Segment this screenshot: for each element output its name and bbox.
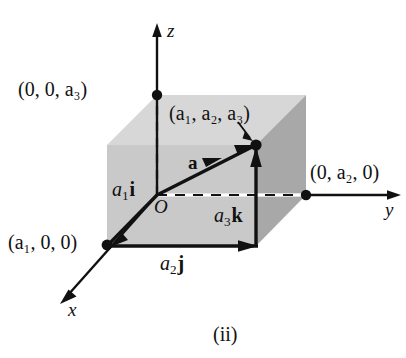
z-component-scalar: a — [214, 204, 224, 226]
label-y-intercept-text: (0, a₂, 0) — [310, 161, 379, 183]
x-component-unit: i — [130, 178, 136, 200]
z-component-index: 3 — [224, 214, 231, 229]
label-origin: O — [154, 197, 168, 216]
vector-components-diagram: (0, 0, a₃) (a₁, a₂, a₃) (0, a₂, 0) (a₁, … — [0, 0, 406, 358]
label-resultant-vector: a — [188, 153, 198, 172]
y-component-unit: j — [178, 252, 185, 274]
origin-name: O — [154, 196, 168, 217]
figure-caption-text: (ii) — [213, 323, 237, 345]
y-axis-name: y — [385, 199, 393, 220]
label-z-component: a3k — [214, 205, 243, 228]
point-dot-x-intercept — [102, 240, 113, 251]
label-z-intercept-text: (0, 0, a₃) — [18, 78, 87, 100]
y-component-index: 2 — [170, 262, 177, 277]
label-x-axis: x — [68, 300, 76, 319]
resultant-vector-name: a — [188, 152, 198, 173]
label-x-intercept: (a₁, 0, 0) — [8, 232, 77, 252]
label-x-intercept-text: (a₁, 0, 0) — [8, 231, 77, 253]
label-y-axis: y — [385, 200, 393, 219]
point-dot-z-intercept — [152, 90, 162, 100]
y-component-scalar: a — [160, 252, 170, 274]
label-z-axis: z — [167, 21, 174, 40]
x-axis-name: x — [68, 299, 76, 320]
label-vector-tip: (a₁, a₂, a₃) — [169, 103, 250, 123]
z-component-unit: k — [232, 204, 243, 226]
label-x-component: a1i — [112, 179, 135, 202]
z-axis-name: z — [167, 20, 174, 41]
label-z-intercept: (0, 0, a₃) — [18, 79, 87, 99]
label-vector-tip-text: (a₁, a₂, a₃) — [169, 102, 250, 124]
z-axis-arrowhead — [152, 23, 162, 37]
label-y-component: a2j — [160, 253, 184, 276]
point-dot-vector-tip — [250, 139, 261, 150]
figure-caption: (ii) — [213, 324, 237, 344]
label-y-intercept: (0, a₂, 0) — [310, 162, 379, 182]
x-component-index: 1 — [122, 188, 129, 203]
point-dot-y-intercept — [301, 190, 311, 200]
x-component-scalar: a — [112, 178, 122, 200]
